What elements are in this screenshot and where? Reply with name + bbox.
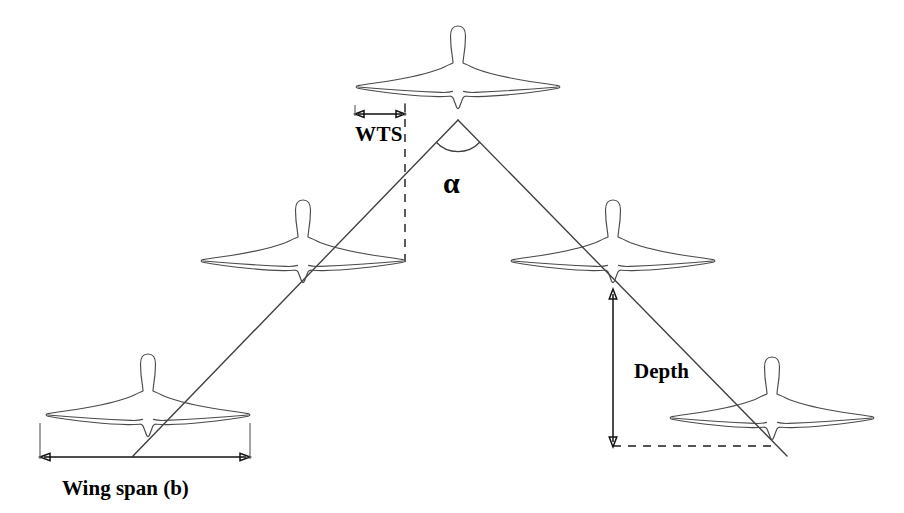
formation-right-arm	[458, 120, 787, 456]
bird-left-middle	[201, 200, 405, 283]
angle-arc	[436, 142, 480, 152]
angle-label: α	[443, 166, 460, 199]
formation-left-arm	[133, 120, 458, 456]
wingspan-label: Wing span (b)	[62, 476, 189, 500]
bird-right-middle	[511, 200, 715, 283]
formation-lines	[133, 120, 787, 456]
bird-right-rear	[670, 357, 874, 440]
figure-root: WTS α Depth Wing span (b)	[0, 0, 904, 513]
v-formation-diagram: WTS α Depth Wing span (b)	[0, 0, 904, 513]
wts-label: WTS	[355, 122, 403, 146]
wingspan-dimension	[40, 423, 250, 461]
wts-dimension	[355, 103, 405, 118]
bird-apex	[356, 26, 560, 109]
depth-dimension	[609, 289, 617, 447]
depth-label: Depth	[634, 359, 689, 383]
